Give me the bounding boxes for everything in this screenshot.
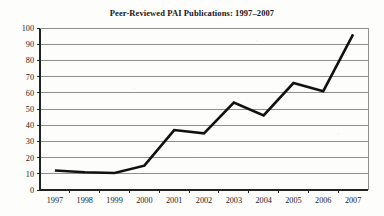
data-series-line (55, 34, 353, 173)
gridlines-group (40, 28, 368, 174)
x-axis-tick-label: 2003 (226, 196, 242, 205)
x-axis-tick-label: 1997 (47, 196, 63, 205)
x-axis-tick-label: 2000 (136, 196, 152, 205)
x-axis-tick-label: 2004 (255, 196, 271, 205)
x-axis-tick-label: 2001 (166, 196, 182, 205)
y-axis-tick-label: 10 (26, 170, 34, 179)
y-axis-tick-label: 50 (26, 105, 34, 114)
chart-figure: Peer-Reviewed PAI Publications: 1997–200… (0, 0, 384, 216)
line-chart-plot: 0102030405060708090100 19971998199920002… (0, 0, 384, 216)
y-axis-tick-label: 100 (22, 24, 34, 33)
x-axis-tick-label: 2006 (315, 196, 331, 205)
y-axis-tick-label: 40 (26, 121, 34, 130)
x-axis-tick-labels-group: 1997199819992000200120022003200420052006… (47, 196, 362, 205)
x-axis-tick-label: 2005 (285, 196, 301, 205)
y-axis-tick-label: 60 (26, 89, 34, 98)
x-axis-tick-label: 2007 (345, 196, 361, 205)
y-axis-tick-label: 80 (26, 56, 34, 65)
x-axis-tick-label: 1998 (77, 196, 93, 205)
y-axis-tick-label: 90 (26, 40, 34, 49)
y-axis-tick-label: 0 (30, 186, 34, 195)
y-axis-tick-labels-group: 0102030405060708090100 (22, 24, 34, 195)
data-series-line-group (55, 34, 353, 173)
x-axis-tick-label: 2002 (196, 196, 212, 205)
y-axis-tick-label: 70 (26, 73, 34, 82)
x-axis-tick-label: 1999 (106, 196, 122, 205)
y-axis-tick-label: 20 (26, 154, 34, 163)
y-axis-tick-label: 30 (26, 137, 34, 146)
